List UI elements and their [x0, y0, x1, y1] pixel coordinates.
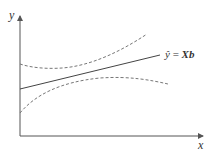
- regression-equation-label: ŷ = Xb: [164, 48, 195, 60]
- lower-confidence-band: [20, 77, 168, 113]
- equals-sign: =: [170, 48, 182, 60]
- y-axis-label: y: [8, 8, 15, 22]
- equation-rhs: Xb: [181, 48, 195, 60]
- x-axis-label: x: [197, 138, 204, 152]
- regression-diagram: y x ŷ = Xb: [0, 0, 213, 153]
- regression-line: [20, 55, 160, 89]
